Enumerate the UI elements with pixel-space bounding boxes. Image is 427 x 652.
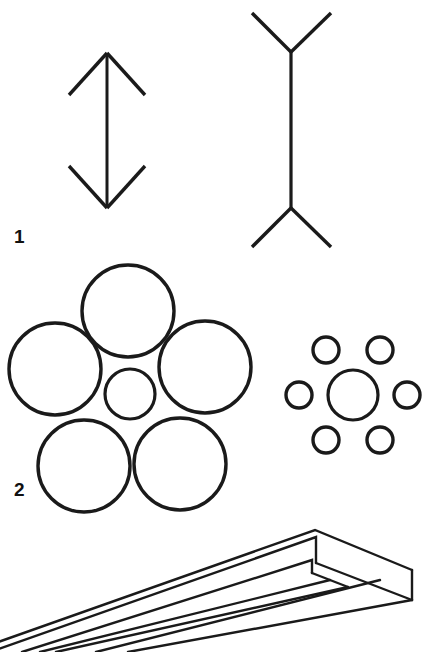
- arrow-inward-fin-top-right: [291, 13, 331, 52]
- center-target-circle-right: [328, 370, 378, 420]
- arrow-inward-fin-bottom-right: [291, 208, 331, 247]
- figure-2-ebbinghaus: 2: [9, 265, 420, 512]
- figure-canvas: 1 2: [0, 0, 427, 652]
- large-flanker-upper-right: [159, 321, 251, 413]
- arrow-inward-fins: [252, 13, 331, 247]
- small-flanker-bottom-left: [313, 427, 339, 453]
- object-slot-upper-rail-edge: [22, 560, 312, 652]
- figure-1-number-label: 1: [14, 226, 25, 247]
- small-flanker-middle-left: [286, 382, 312, 408]
- small-flanker-middle-right: [394, 382, 420, 408]
- arrow-outward-fin-top-left: [69, 53, 107, 95]
- small-flanker-top-left: [313, 337, 339, 363]
- figure-2-number-label: 2: [14, 479, 25, 500]
- illusion-figure-sheet: 1 2: [0, 0, 427, 652]
- object-right-face-lower-edge: [316, 563, 412, 600]
- figure-3-impossible-fork: [0, 530, 412, 652]
- large-flanker-top: [82, 265, 174, 357]
- arrow-outward-fin-bottom-left: [69, 166, 107, 208]
- object-outer-top-edge: [0, 530, 412, 652]
- ebbinghaus-large-flanker-group: [9, 265, 251, 512]
- arrow-outward-fin-top-right: [107, 53, 145, 95]
- arrow-inward-fin-bottom-left: [252, 208, 291, 247]
- arrow-inward-fin-top-left: [252, 13, 291, 52]
- large-flanker-lower-right: [134, 418, 226, 510]
- figure-1-muller-lyer: 1: [14, 13, 331, 247]
- center-target-circle-left: [105, 369, 155, 419]
- arrow-outward-fins: [69, 53, 145, 208]
- arrow-outward-fin-bottom-right: [107, 166, 145, 208]
- large-flanker-lower-left: [38, 420, 130, 512]
- ebbinghaus-small-flanker-group: [286, 337, 420, 453]
- small-flanker-top-right: [367, 337, 393, 363]
- large-flanker-upper-left: [9, 323, 101, 415]
- small-flanker-bottom-right: [367, 427, 393, 453]
